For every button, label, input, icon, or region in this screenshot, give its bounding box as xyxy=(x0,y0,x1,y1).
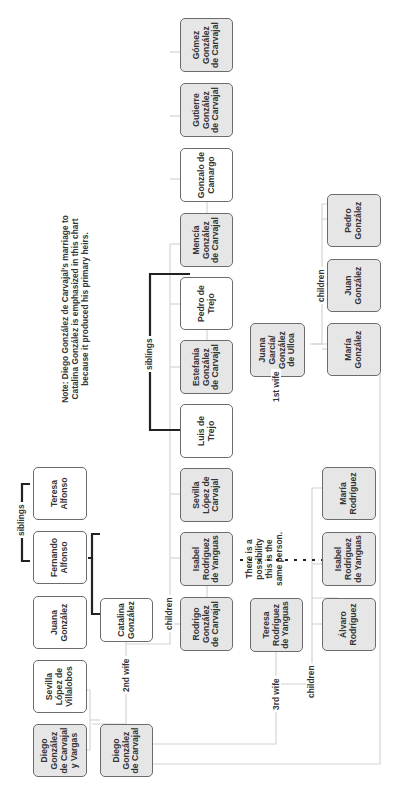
siblings-label-trejo: siblings xyxy=(144,336,154,372)
person-name: Teresa Rodríguez de Yanguas xyxy=(262,601,292,649)
person-maria-gonzalez: María González xyxy=(327,323,381,376)
person-diego-gonzalez-de-carvajal: Diego González de Carvajal xyxy=(100,724,153,777)
person-name: Catalina González xyxy=(117,601,137,639)
person-name: Pedro González xyxy=(344,197,364,244)
person-name: Diego González de Carvajal xyxy=(112,727,142,774)
person-juan-gonzalez: Juan González xyxy=(327,259,381,312)
person-name: Juana García/ González de Ulloa xyxy=(258,326,298,374)
person-name: Rodrigo González de Carvajal xyxy=(192,600,222,648)
person-mencia-gonzalez-de-carvajal: Mencía González de Carvajal xyxy=(180,213,233,267)
children-label-first-wife: children xyxy=(316,267,326,304)
person-name: María González xyxy=(344,326,364,373)
person-name: Sevilla López de Carvajal xyxy=(192,471,222,519)
family-tree-diagram: Diego González de Carvajal y Vargas Sevi… xyxy=(0,0,409,804)
same-person-note: There is a possibility this is the same … xyxy=(244,532,284,586)
person-name: Juan González xyxy=(344,262,364,309)
person-name: Mencía González de Carvajal xyxy=(192,216,222,264)
person-name: Isabel Rodríguez de Yanguas xyxy=(192,535,222,583)
person-name: Gonzalo de Camargo xyxy=(197,151,217,199)
person-name: Diego González de Carvajal y Vargas xyxy=(40,727,80,774)
first-wife-label: 1st wife xyxy=(271,369,281,404)
person-name: Sevilla López de Villalobos xyxy=(45,663,75,710)
person-teresa-alfonso: Teresa Alfonso xyxy=(33,467,87,520)
person-gonzalo-de-camargo: Gonzalo de Camargo xyxy=(180,148,233,202)
person-alvaro-rodriguez: Álvaro Rodríguez xyxy=(322,598,376,651)
person-name: Luis de Trejo xyxy=(197,407,217,455)
children-label-third-wife: children xyxy=(306,663,316,700)
person-name: Juana González xyxy=(50,599,70,646)
person-rodrigo-gonzalez-de-carvajal: Rodrigo González de Carvajal xyxy=(180,597,233,651)
person-name: María Rodríguez xyxy=(339,470,359,517)
person-catalina-gonzalez: Catalina González xyxy=(100,598,153,642)
person-gutierre-gonzalez-de-carvajal: Gutierre González de Carvajal xyxy=(180,83,233,137)
person-name: Estefanía González de Carvajal xyxy=(192,343,222,391)
person-diego-gonzalez-de-carvajal-y-vargas: Diego González de Carvajal y Vargas xyxy=(33,724,87,777)
person-gomez-gonzalez-de-carvajal: Gómez González de Carvajal xyxy=(180,18,233,72)
person-isabel-rodriguez-de-yanguas-2: Isabel Rodríguez de Yanguas xyxy=(322,532,376,586)
person-pedro-gonzalez: Pedro González xyxy=(327,194,381,247)
person-name: Teresa Alfonso xyxy=(50,470,70,517)
siblings-label-alfonso: siblings xyxy=(16,502,26,538)
third-wife-label: 3rd wife xyxy=(271,676,281,712)
person-teresa-rodriguez-de-yanguas: Teresa Rodríguez de Yanguas xyxy=(250,598,303,652)
person-sevilla-lopez-de-villalobos: Sevilla López de Villalobos xyxy=(33,660,87,713)
person-name: Gutierre González de Carvajal xyxy=(192,86,222,134)
person-isabel-rodriguez-de-yanguas: Isabel Rodríguez de Yanguas xyxy=(180,532,233,586)
person-name: Isabel Rodríguez de Yanguas xyxy=(334,535,364,583)
person-name: Gómez González de Carvajal xyxy=(192,21,222,69)
person-sevilla-lopez-de-carvajal: Sevilla López de Carvajal xyxy=(180,468,233,522)
person-name: Pedro de Trejo xyxy=(197,280,217,327)
person-juana-gonzalez: Juana González xyxy=(33,596,87,649)
person-pedro-de-trejo: Pedro de Trejo xyxy=(180,277,233,330)
second-wife-label: 2nd wife xyxy=(121,656,131,694)
children-label-second-wife: children xyxy=(164,595,174,632)
person-fernando-alfonso: Fernando Alfonso xyxy=(33,531,87,584)
person-name: Álvaro Rodríguez xyxy=(339,601,359,648)
person-maria-rodriguez: María Rodríguez xyxy=(322,467,376,520)
diagram-note: Note: Diego González de Carvajal's marri… xyxy=(60,209,90,409)
person-luis-de-trejo: Luis de Trejo xyxy=(180,404,233,458)
person-estefania-gonzalez-de-carvajal: Estefanía González de Carvajal xyxy=(180,340,233,394)
person-name: Fernando Alfonso xyxy=(50,534,70,581)
